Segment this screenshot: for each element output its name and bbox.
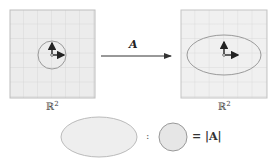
area-ellipse [61, 117, 137, 157]
right-space-label: ℝ2 [218, 100, 231, 112]
diagram-canvas [0, 0, 275, 165]
right-grid [181, 10, 267, 98]
left-grid [10, 10, 95, 98]
ratio-colon: : [146, 130, 149, 141]
left-space-label: ℝ2 [46, 100, 59, 112]
area-circle [159, 123, 187, 151]
determinant-label: = |A| [192, 130, 222, 143]
transform-label: A [129, 38, 138, 51]
